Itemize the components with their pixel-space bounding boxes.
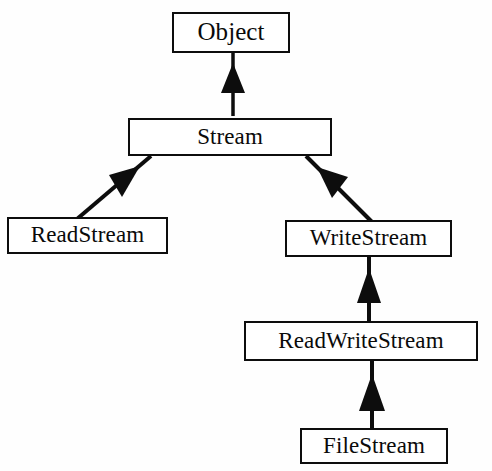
class-box-readstream[interactable]: ReadStream xyxy=(7,217,168,254)
edge-writestream-to-stream xyxy=(306,156,372,222)
class-box-stream[interactable]: Stream xyxy=(128,118,332,156)
arrowhead-icon xyxy=(221,63,245,93)
arrowhead-icon xyxy=(357,268,381,303)
arrowhead-icon xyxy=(317,167,348,198)
class-box-object[interactable]: Object xyxy=(172,12,290,53)
edge-stream-to-object xyxy=(221,53,245,116)
class-box-writestream[interactable]: WriteStream xyxy=(285,220,452,257)
class-box-label: FileStream xyxy=(323,434,425,459)
edge-filestream-to-readwritestream xyxy=(359,361,385,428)
class-box-label: WriteStream xyxy=(310,226,428,251)
class-box-filestream[interactable]: FileStream xyxy=(300,428,448,464)
class-box-label: Object xyxy=(197,19,264,46)
arrowhead-icon xyxy=(109,166,140,197)
arrowhead-icon xyxy=(359,374,385,411)
class-box-label: Stream xyxy=(197,125,263,150)
class-box-readwritestream[interactable]: ReadWriteStream xyxy=(244,321,478,361)
class-hierarchy-diagram: Object Stream ReadStream WriteStream Rea… xyxy=(0,0,492,471)
edge-readwritestream-to-writestream xyxy=(357,256,381,321)
class-box-label: ReadStream xyxy=(31,223,144,248)
class-box-label: ReadWriteStream xyxy=(278,329,443,354)
edge-readstream-to-stream xyxy=(77,156,151,219)
